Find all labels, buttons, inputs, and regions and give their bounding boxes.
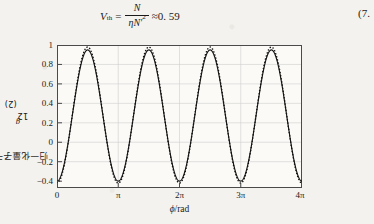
x-tick-label: 0 [55,190,60,200]
equation-fraction: N ηN′2 [125,3,148,28]
y-tick-label: 0.8 [25,59,53,69]
y-axis-label-text: 归一化量子干涉g12(2) [9,98,26,188]
equation-equals-sign: = [115,10,121,22]
equation-lhs-variable: V [100,10,107,22]
x-tick-label: 2π [175,190,184,200]
equation-lhs-subscript: th [107,14,112,22]
equation-value: 0. 59 [158,10,180,22]
interference-plot-svg [57,45,302,188]
y-tick-label: 0.6 [25,79,53,89]
y-tick-label: 1 [25,40,53,50]
y-axis-label: 归一化量子干涉g12(2) [8,88,26,198]
x-tick-label: 3π [236,190,245,200]
x-tick-label: π [116,190,121,200]
y-axis-label-superscript: (2) [5,99,17,109]
figure-container: 归一化量子干涉g12(2) 1 0.8 0.6 0.4 0.2 0 −0.2 −… [0,40,374,224]
x-tick-labels: 0 π 2π 3π 4π [57,190,302,204]
y-tick-label: 0 [25,137,53,147]
x-tick-label: 4π [295,190,304,200]
denominator-exponent: 2 [142,13,146,21]
x-axis-label-unit: /rad [175,204,190,214]
plot-area [57,45,302,188]
y-tick-label: 0.2 [25,118,53,128]
equation-denominator: ηN′2 [125,17,148,29]
y-tick-label: 0.4 [25,98,53,108]
equation-row: Vth = N ηN′2 ≈ 0. 59 (7. [0,0,374,38]
threshold-equation: Vth = N ηN′2 ≈ 0. 59 [100,3,180,28]
equation-number: (7. [358,7,370,19]
x-axis-label: ϕ/rad [57,204,302,214]
equation-numerator: N [131,3,144,14]
y-tick-label: −0.2 [25,157,53,167]
y-tick-labels: 1 0.8 0.6 0.4 0.2 0 −0.2 −0.4 [25,45,53,188]
y-tick-label: −0.4 [25,176,53,186]
